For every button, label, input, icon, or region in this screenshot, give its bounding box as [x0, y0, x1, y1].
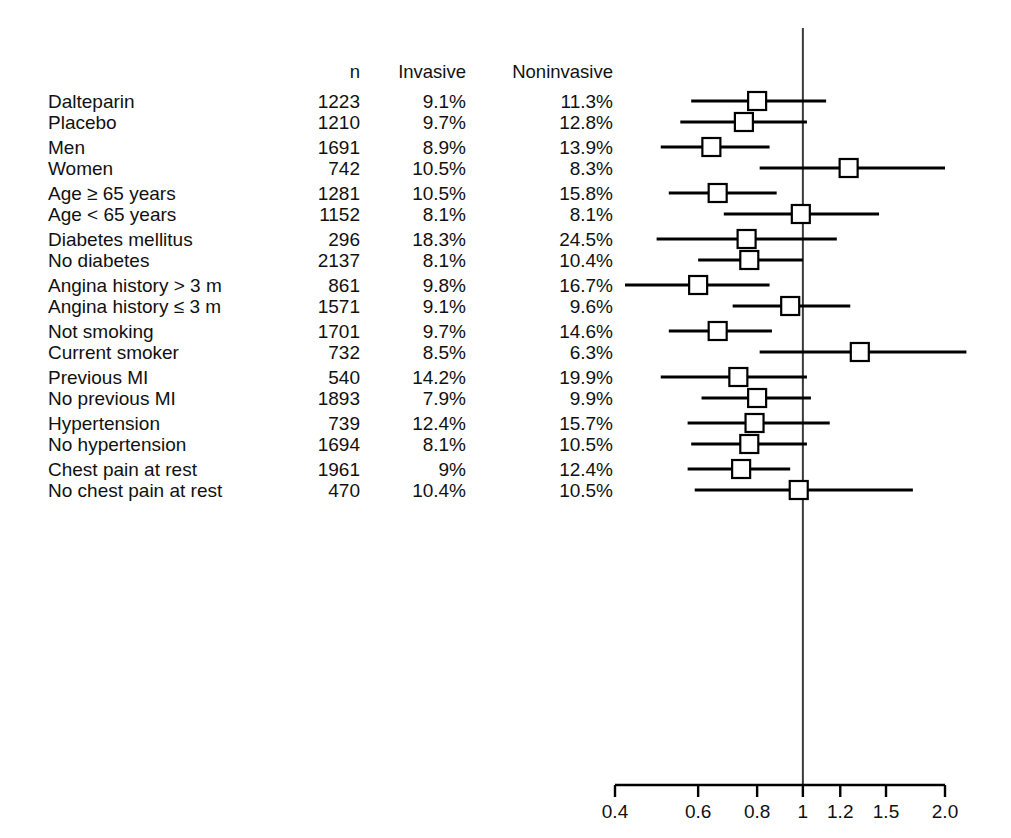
odds-ratio-marker [709, 322, 727, 340]
x-axis-tick-label: 2.0 [825, 802, 1011, 821]
odds-ratio-marker [792, 205, 810, 223]
odds-ratio-marker [781, 297, 799, 315]
odds-ratio-marker [702, 138, 720, 156]
odds-ratio-marker [689, 276, 707, 294]
odds-ratio-marker [735, 113, 753, 131]
odds-ratio-marker [738, 230, 756, 248]
forest-plot-canvas [0, 0, 1011, 838]
forest-plot: nInvasiveNoninvasiveDalteparin12239.1%11… [0, 0, 1011, 838]
odds-ratio-marker [840, 159, 858, 177]
odds-ratio-marker [732, 460, 750, 478]
odds-ratio-marker [729, 368, 747, 386]
odds-ratio-marker [748, 92, 766, 110]
odds-ratio-marker [740, 251, 758, 269]
odds-ratio-marker [740, 435, 758, 453]
odds-ratio-marker [709, 184, 727, 202]
odds-ratio-marker [746, 414, 764, 432]
odds-ratio-marker [851, 343, 869, 361]
odds-ratio-marker [748, 389, 766, 407]
odds-ratio-marker [790, 481, 808, 499]
